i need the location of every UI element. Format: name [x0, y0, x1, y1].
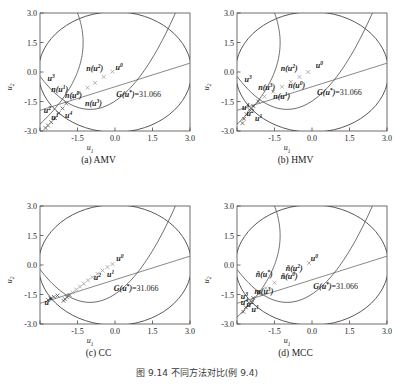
x-tick-label: 1.5: [148, 134, 158, 143]
data-marker: [263, 95, 267, 99]
y-tick-label: 1.5: [27, 39, 37, 48]
data-marker: [273, 281, 277, 285]
point-label: u3: [245, 74, 252, 84]
x-tick-label: 0.0: [110, 327, 120, 336]
y-axis-label-c: u2: [5, 253, 16, 283]
point-label: u1: [255, 113, 262, 123]
point-label: u0: [311, 253, 318, 263]
x-tick-label: -1.5: [71, 327, 84, 336]
point-label: u2: [94, 272, 101, 282]
limit-state-annotation: G(u*)=31.066: [114, 283, 159, 293]
plot-content: u0n(u2)u3n(u1)n(u0)n(u3)u2u1u4G(u*)=31.0…: [34, 0, 191, 132]
plot-hmv: -1.50.01.53.03.01.50.0-1.5-3.0u0n(u2)u3n…: [197, 0, 394, 160]
data-marker: [298, 75, 302, 79]
panel-caption-a: (a) AMV: [0, 155, 197, 165]
point-label: u1: [252, 304, 259, 314]
panel-hmv: -1.50.01.53.03.01.50.0-1.5-3.0u0n(u2)u3n…: [197, 0, 394, 192]
y-tick-label: 3.0: [27, 202, 37, 211]
y-tick-label: 0.0: [224, 68, 234, 77]
point-label: u0: [116, 62, 123, 72]
y-tick-label: 3.0: [224, 9, 234, 18]
data-marker: [74, 288, 78, 292]
y-tick-label: 0.0: [27, 68, 37, 77]
plot-content: u0n(u2)u3n(u3)n(u0)n(u1)u4u2u1G(u*)=31.0…: [231, 0, 388, 132]
y-tick-label: 3.0: [224, 202, 234, 211]
figure-caption: 图 9.14 不同方法对比(例 9.4): [0, 366, 394, 385]
y-axis-label-d: u2: [202, 253, 213, 283]
data-marker: [56, 294, 60, 298]
limit-state-annotation: G(u*)=31.066: [317, 87, 362, 97]
y-tick-label: -1.5: [221, 98, 234, 107]
point-label: n(u1): [273, 91, 290, 101]
data-marker: [86, 278, 90, 282]
x-axis-label-c: u1: [60, 336, 120, 347]
x-tick-label: 1.5: [345, 327, 355, 336]
data-marker: [101, 269, 105, 273]
point-label: ñ(u*): [256, 269, 273, 279]
x-tick-label: 3.0: [382, 327, 392, 336]
point-label: ñ(u2): [286, 263, 303, 273]
point-label: u0: [116, 253, 123, 263]
data-marker: [86, 86, 90, 90]
data-marker: [82, 282, 86, 286]
point-label: u*: [45, 297, 52, 307]
point-label: n(u0): [288, 80, 305, 90]
panel-caption-c: (c) CC: [0, 348, 197, 358]
point-label: m(u3): [255, 286, 274, 296]
panel-mcc: -1.50.01.53.03.01.50.0-1.5-3.0u0ñ(u*)ñ(u…: [197, 193, 394, 385]
y-tick-label: -3.0: [221, 127, 234, 136]
x-tick-label: -1.5: [71, 134, 84, 143]
y-tick-label: -3.0: [24, 127, 37, 136]
point-label: u0: [316, 60, 323, 70]
point-label: u1: [51, 112, 58, 122]
panel-caption-d: (d) MCC: [197, 348, 394, 358]
y-axis-label-a: u2: [5, 60, 16, 90]
data-marker: [241, 121, 245, 125]
plot-amv: -1.50.01.53.03.01.50.0-1.5-3.0u0n(u2)u3n…: [0, 0, 197, 160]
y-axis-label-b: u2: [202, 60, 213, 90]
limit-state-annotation: G(u*)=31.066: [313, 281, 358, 291]
y-tick-label: 0.0: [27, 261, 37, 270]
x-tick-label: 1.5: [345, 134, 355, 143]
point-label: u4: [65, 110, 72, 120]
x-axis-label-b: u1: [257, 143, 317, 154]
data-marker: [44, 126, 48, 130]
data-marker: [93, 81, 97, 85]
figure-container: -1.50.01.53.03.01.50.0-1.5-3.0u0n(u2)u3n…: [0, 0, 394, 385]
x-tick-label: 0.0: [110, 134, 120, 143]
data-marker: [78, 285, 82, 289]
y-tick-label: 1.5: [224, 232, 234, 241]
x-tick-label: -1.5: [268, 327, 281, 336]
y-tick-label: -3.0: [221, 320, 234, 329]
y-tick-label: -1.5: [221, 291, 234, 300]
plot-content: u0u1u2u*G(u*)=31.066: [38, 193, 191, 325]
panel-cc: -1.50.01.53.03.01.50.0-1.5-3.0u0u1u2u*G(…: [0, 193, 197, 385]
point-label: u2: [247, 108, 254, 118]
y-tick-label: 1.5: [27, 232, 37, 241]
data-marker: [61, 106, 65, 110]
point-label: u3: [48, 73, 55, 83]
plot-content: u0ñ(u*)ñ(u0)ñ(u2)m(u3)u3u4u2u1G(u*)=31.0…: [231, 193, 388, 325]
y-tick-label: -3.0: [24, 320, 37, 329]
data-marker: [62, 299, 66, 303]
x-tick-label: 0.0: [307, 134, 317, 143]
panel-amv: -1.50.01.53.03.01.50.0-1.5-3.0u0n(u2)u3n…: [0, 0, 197, 192]
x-tick-label: 1.5: [148, 327, 158, 336]
point-label: n(u0): [65, 90, 82, 100]
x-axis-label-d: u1: [257, 336, 317, 347]
point-label: u1: [107, 269, 114, 279]
point-label: n(u3): [85, 98, 102, 108]
x-tick-label: 3.0: [185, 134, 195, 143]
y-tick-label: 0.0: [224, 261, 234, 270]
data-marker: [111, 262, 115, 266]
data-marker: [306, 70, 310, 74]
x-tick-label: 3.0: [185, 327, 195, 336]
x-tick-label: -1.5: [268, 134, 281, 143]
y-tick-label: -1.5: [24, 98, 37, 107]
data-marker: [102, 75, 106, 79]
y-tick-label: 1.5: [224, 39, 234, 48]
data-marker: [106, 265, 110, 269]
limit-state-annotation: G(u*)=31.066: [116, 89, 161, 99]
plot-mcc: -1.50.01.53.03.01.50.0-1.5-3.0u0ñ(u*)ñ(u…: [197, 193, 394, 353]
y-tick-label: -1.5: [24, 291, 37, 300]
